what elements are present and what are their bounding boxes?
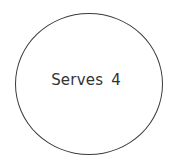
servings-label: Serves 4	[0, 71, 172, 89]
